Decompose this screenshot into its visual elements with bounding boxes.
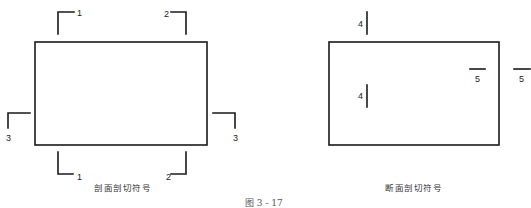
label-1-top: 1	[77, 8, 82, 18]
cut-marker-2-top	[171, 12, 186, 34]
label-3-left: 3	[6, 133, 11, 143]
right-panel-caption: 断面剖切符号	[385, 183, 442, 193]
right-section-rectangle	[329, 42, 499, 145]
label-4-top: 4	[358, 19, 363, 29]
figure-caption: 图 3 - 17	[245, 198, 283, 208]
label-5-outside: 5	[519, 74, 524, 84]
cut-marker-2-bottom	[171, 152, 186, 174]
cut-marker-1-top	[58, 12, 74, 34]
label-5-inside: 5	[475, 74, 480, 84]
cut-marker-3-right	[213, 113, 235, 128]
label-1-bottom: 1	[77, 172, 82, 182]
left-section-rectangle	[35, 42, 207, 145]
diagram-canvas: 1 2 3 3 1 2 剖面剖切符号 4 4 5 5 断面剖切符号 图 3 - …	[0, 0, 531, 208]
label-2-top: 2	[164, 9, 169, 19]
label-3-right: 3	[233, 133, 238, 143]
cut-marker-1-bottom	[58, 152, 73, 174]
label-4-middle: 4	[358, 91, 363, 101]
left-panel-caption: 剖面剖切符号	[94, 183, 151, 193]
label-2-bottom: 2	[166, 172, 171, 182]
cut-marker-3-left	[8, 113, 30, 128]
